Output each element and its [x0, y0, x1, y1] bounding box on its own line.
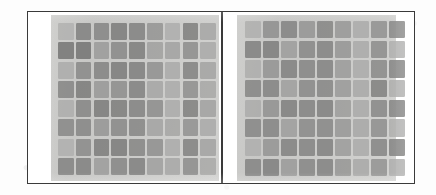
- grid-cell: [353, 21, 369, 38]
- grid-cell: [299, 159, 315, 176]
- grid-cell: [299, 119, 315, 136]
- grid-cell: [111, 23, 127, 40]
- grid-cell: [263, 80, 279, 97]
- grid-cell: [183, 139, 199, 156]
- grid-cell: [183, 62, 199, 79]
- grid-cell: [94, 119, 110, 136]
- grid-cell: [335, 80, 351, 97]
- grid-cell: [281, 21, 297, 38]
- grid-cell: [245, 21, 261, 38]
- grid-cell: [245, 100, 261, 117]
- grid-cell: [371, 119, 387, 136]
- grid-cell: [111, 62, 127, 79]
- grid-cell: [353, 100, 369, 117]
- grid-cell: [371, 159, 387, 176]
- grid-cell: [245, 41, 261, 58]
- grid-cell: [371, 139, 387, 156]
- grid-cell: [389, 119, 405, 136]
- grid-cell: [76, 119, 92, 136]
- grid-cell: [299, 100, 315, 117]
- grid-cell: [76, 139, 92, 156]
- grid-cell: [353, 60, 369, 77]
- grid-cell: [76, 23, 92, 40]
- grid-cell: [111, 119, 127, 136]
- grid-cell: [389, 100, 405, 117]
- grid-cell: [335, 41, 351, 58]
- grid-cell: [200, 158, 216, 175]
- grid-cell: [371, 100, 387, 117]
- grid-cell: [165, 139, 181, 156]
- grid-cell: [371, 21, 387, 38]
- grid-cell: [111, 139, 127, 156]
- grid-cell: [335, 60, 351, 77]
- grid-cell: [58, 139, 74, 156]
- grid-cell: [129, 62, 145, 79]
- grid-cell: [299, 80, 315, 97]
- grid-cell: [200, 139, 216, 156]
- grid-cell: [111, 158, 127, 175]
- grid-cell: [165, 100, 181, 117]
- grid-cell: [94, 42, 110, 59]
- figure-frame: [27, 11, 415, 184]
- grid-cell: [200, 100, 216, 117]
- grid-cell: [58, 81, 74, 98]
- grid-cell: [58, 100, 74, 117]
- grid-cell: [129, 100, 145, 117]
- grid-cell: [58, 23, 74, 40]
- grid-cell: [353, 41, 369, 58]
- grid-cell: [76, 100, 92, 117]
- grid-cell: [389, 139, 405, 156]
- grid-cell: [76, 158, 92, 175]
- grid-cell: [281, 41, 297, 58]
- grid-cell: [317, 41, 333, 58]
- grid-cell: [94, 81, 110, 98]
- grid-cell: [94, 158, 110, 175]
- grid-cell: [129, 139, 145, 156]
- grid-cell: [165, 42, 181, 59]
- grid-cell: [245, 119, 261, 136]
- grid-cell: [183, 119, 199, 136]
- grid-cell: [317, 100, 333, 117]
- grid-cell: [263, 41, 279, 58]
- grid-cell: [335, 21, 351, 38]
- grid-cell: [389, 159, 405, 176]
- grid-cell: [299, 41, 315, 58]
- grid-cell: [94, 100, 110, 117]
- grid-cell: [147, 119, 163, 136]
- grid-cell: [317, 159, 333, 176]
- grid-cell: [183, 100, 199, 117]
- grid-cell: [263, 100, 279, 117]
- grid-cell: [245, 159, 261, 176]
- grid-cell: [200, 23, 216, 40]
- grid-cell: [165, 81, 181, 98]
- grid-cell: [263, 60, 279, 77]
- grid-cell: [111, 81, 127, 98]
- grid-cell: [147, 42, 163, 59]
- grid-cell: [389, 80, 405, 97]
- grid-cell: [165, 119, 181, 136]
- grid-cell: [353, 119, 369, 136]
- grid-cell: [147, 139, 163, 156]
- grid-cell: [94, 23, 110, 40]
- grid-cell: [335, 119, 351, 136]
- grid-cell: [371, 80, 387, 97]
- grid-cell: [200, 42, 216, 59]
- grid-cell: [200, 62, 216, 79]
- grid-cell: [299, 139, 315, 156]
- grid-cell: [111, 42, 127, 59]
- grid-cell: [76, 42, 92, 59]
- grid-cell: [281, 119, 297, 136]
- grid-cell: [245, 60, 261, 77]
- right-panel: [223, 12, 414, 183]
- grid-cell: [58, 119, 74, 136]
- grid-cell: [147, 100, 163, 117]
- grid-cell: [147, 62, 163, 79]
- grid-cell: [299, 60, 315, 77]
- grid-cell: [317, 21, 333, 38]
- grid-cell: [165, 23, 181, 40]
- grid-cell: [183, 158, 199, 175]
- grid-cell: [317, 60, 333, 77]
- grid-cell: [129, 119, 145, 136]
- grid-cell: [317, 119, 333, 136]
- grid-cell: [200, 81, 216, 98]
